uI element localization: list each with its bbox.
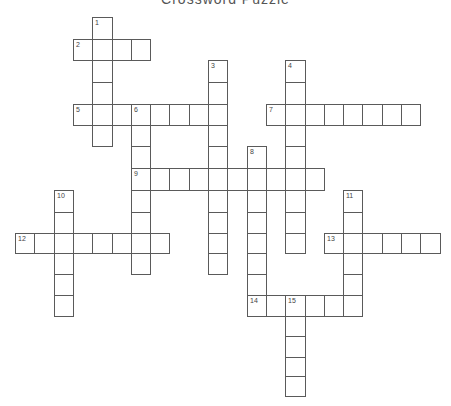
crossword-cell[interactable]: [208, 212, 228, 234]
crossword-cell[interactable]: [285, 82, 306, 105]
crossword-cell[interactable]: [343, 233, 363, 254]
crossword-cell[interactable]: [131, 212, 151, 234]
crossword-cell[interactable]: 8: [247, 146, 267, 169]
crossword-cell[interactable]: [247, 253, 267, 275]
crossword-cell[interactable]: [208, 82, 228, 105]
crossword-cell[interactable]: [34, 233, 55, 254]
crossword-cell[interactable]: [343, 104, 363, 126]
crossword-cell[interactable]: 10: [54, 190, 74, 213]
crossword-cell[interactable]: [131, 39, 151, 61]
crossword-cell[interactable]: [208, 190, 228, 213]
crossword-cell[interactable]: 9: [131, 168, 151, 191]
crossword-cell[interactable]: [285, 233, 306, 254]
crossword-cell[interactable]: [54, 295, 74, 317]
crossword-cell[interactable]: [324, 104, 344, 126]
crossword-cell[interactable]: [247, 274, 267, 296]
crossword-cell[interactable]: [208, 125, 228, 147]
crossword-cell[interactable]: [324, 295, 344, 317]
crossword-cell[interactable]: 5: [73, 104, 93, 126]
crossword-cell[interactable]: [208, 168, 228, 191]
crossword-cell[interactable]: [401, 233, 421, 254]
crossword-cell[interactable]: [343, 274, 363, 296]
crossword-cell[interactable]: [208, 146, 228, 169]
crossword-cell[interactable]: [285, 146, 306, 169]
crossword-cell[interactable]: [150, 233, 170, 254]
crossword-cell[interactable]: [382, 104, 402, 126]
crossword-cell[interactable]: [131, 190, 151, 213]
crossword-cell[interactable]: 12: [15, 233, 35, 254]
crossword-cell[interactable]: [343, 212, 363, 234]
crossword-cell[interactable]: [343, 295, 363, 317]
crossword-cell[interactable]: [285, 316, 306, 337]
crossword-cell[interactable]: [362, 233, 383, 254]
crossword-cell[interactable]: [362, 104, 383, 126]
crossword-cell[interactable]: [305, 168, 325, 191]
crossword-cell[interactable]: [208, 104, 228, 126]
crossword-cell[interactable]: [92, 233, 113, 254]
crossword-cell[interactable]: 6: [131, 104, 151, 126]
crossword-cell[interactable]: [266, 295, 286, 317]
crossword-cell[interactable]: [285, 125, 306, 147]
crossword-cell[interactable]: [112, 104, 132, 126]
crossword-cell[interactable]: [54, 212, 74, 234]
crossword-cell[interactable]: [208, 253, 228, 275]
crossword-cell[interactable]: [247, 233, 267, 254]
crossword-cell[interactable]: [92, 104, 113, 126]
crossword-cell[interactable]: [189, 104, 209, 126]
clue-number: 4: [288, 62, 292, 69]
crossword-cell[interactable]: [285, 190, 306, 213]
crossword-cell[interactable]: [266, 168, 286, 191]
crossword-cell[interactable]: 1: [92, 17, 113, 40]
crossword-cell[interactable]: 15: [285, 295, 306, 317]
crossword-cell[interactable]: [131, 146, 151, 169]
clue-number: 15: [288, 297, 296, 304]
crossword-cell[interactable]: [112, 233, 132, 254]
crossword-cell[interactable]: [92, 125, 113, 147]
clue-number: 9: [134, 170, 138, 177]
crossword-cell[interactable]: [169, 104, 190, 126]
crossword-cell[interactable]: 4: [285, 60, 306, 83]
crossword-cell[interactable]: 7: [266, 104, 286, 126]
crossword-cell[interactable]: [150, 168, 170, 191]
clue-number: 8: [250, 148, 254, 155]
crossword-cell[interactable]: [131, 125, 151, 147]
crossword-cell[interactable]: 2: [73, 39, 93, 61]
crossword-cell[interactable]: [285, 168, 306, 191]
crossword-cell[interactable]: [54, 274, 74, 296]
crossword-cell[interactable]: [92, 60, 113, 83]
crossword-cell[interactable]: [54, 233, 74, 254]
crossword-cell[interactable]: [131, 253, 151, 275]
crossword-cell[interactable]: [305, 104, 325, 126]
crossword-cell[interactable]: [227, 168, 248, 191]
crossword-cell[interactable]: [247, 212, 267, 234]
crossword-cell[interactable]: [92, 39, 113, 61]
crossword-cell[interactable]: [285, 104, 306, 126]
crossword-cell[interactable]: [92, 82, 113, 105]
crossword-cell[interactable]: [420, 233, 441, 254]
crossword-cell[interactable]: [343, 253, 363, 275]
crossword-cell[interactable]: [208, 233, 228, 254]
crossword-cell[interactable]: 14: [247, 295, 267, 317]
crossword-cell[interactable]: [401, 104, 421, 126]
crossword-cell[interactable]: [73, 233, 93, 254]
clue-number: 2: [76, 41, 80, 48]
crossword-cell[interactable]: [285, 212, 306, 234]
crossword-cell[interactable]: 13: [324, 233, 344, 254]
crossword-cell[interactable]: [247, 168, 267, 191]
crossword-cell[interactable]: [285, 336, 306, 358]
clue-number: 6: [134, 106, 138, 113]
crossword-cell[interactable]: [189, 168, 209, 191]
crossword-cell[interactable]: [112, 39, 132, 61]
crossword-cell[interactable]: [285, 357, 306, 377]
crossword-cell[interactable]: [131, 233, 151, 254]
crossword-cell[interactable]: [382, 233, 402, 254]
crossword-cell[interactable]: 11: [343, 190, 363, 213]
crossword-cell[interactable]: [54, 253, 74, 275]
crossword-cell[interactable]: [285, 376, 306, 397]
crossword-cell[interactable]: 3: [208, 60, 228, 83]
crossword-cell[interactable]: [150, 104, 170, 126]
crossword-cell[interactable]: [247, 190, 267, 213]
crossword-cell[interactable]: [169, 168, 190, 191]
clue-number: 5: [76, 106, 80, 113]
crossword-cell[interactable]: [305, 295, 325, 317]
